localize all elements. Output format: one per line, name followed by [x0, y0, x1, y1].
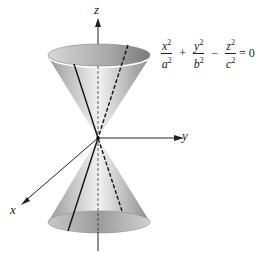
- origin-point: [96, 136, 100, 140]
- x-axis-label: x: [10, 202, 16, 218]
- y-axis-label: y: [182, 128, 188, 144]
- term-y: y2 b2: [193, 36, 204, 71]
- lower-nappe: [48, 138, 150, 233]
- upper-nappe: [48, 44, 150, 138]
- cone-equation: x2 a2 + y2 b2 − z2 c2 = 0: [158, 36, 255, 71]
- term-x: x2 a2: [161, 36, 172, 71]
- y-axis: [98, 135, 184, 141]
- minus-operator: −: [211, 46, 218, 61]
- term-z: z2 c2: [225, 36, 236, 71]
- plus-operator: +: [179, 46, 186, 61]
- z-axis-label: z: [94, 2, 99, 18]
- equals-zero: = 0: [239, 46, 255, 61]
